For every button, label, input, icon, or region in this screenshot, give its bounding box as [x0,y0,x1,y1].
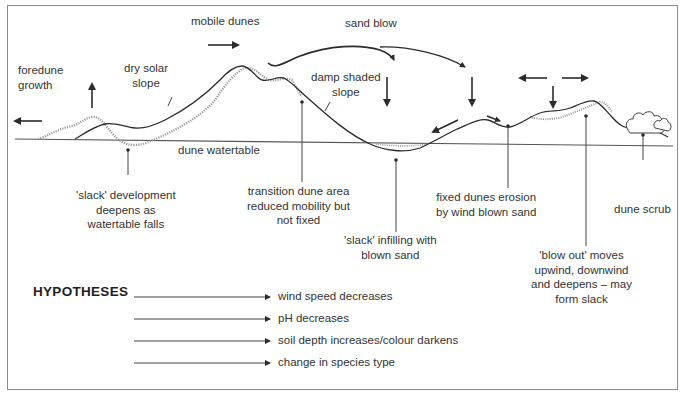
label-mobile-dunes: mobile dunes [191,14,259,29]
label-blow-out: 'blow out' moves upwind, downwind and de… [531,248,632,306]
label-fixed-dunes-erosion: fixed dunes erosion by wind blown sand [436,190,536,219]
hypothesis-item: pH decreases [278,312,349,324]
label-sand-blow: sand blow [345,16,397,31]
label-slack-infilling: 'slack' infilling with blown sand [344,233,437,262]
label-dune-watertable: dune watertable [178,143,260,158]
label-foredune-growth: foredune growth [18,63,63,92]
hypothesis-item: soil depth increases/colour darkens [278,334,458,346]
dune-scrub-icon [626,112,671,133]
hypotheses-title: HYPOTHESES [33,284,128,299]
hypothesis-item: change in species type [278,356,395,368]
label-slack-development: 'slack' development deepens as watertabl… [76,188,176,232]
stippled-old-profile [38,68,302,145]
sand-blow-arrow [268,46,394,65]
label-damp-shaded-slope: damp shaded slope [311,70,381,99]
hypothesis-item: wind speed decreases [278,290,392,302]
label-dune-scrub: dune scrub [614,202,671,217]
watertable-line [15,139,673,146]
leader-lines [128,97,643,246]
label-transition-dune: transition dune area reduced mobility bu… [247,184,350,228]
label-dry-solar-slope: dry solar slope [124,61,168,90]
stippled-slack-infill [376,144,428,146]
hypothesis-arrows [134,297,270,363]
